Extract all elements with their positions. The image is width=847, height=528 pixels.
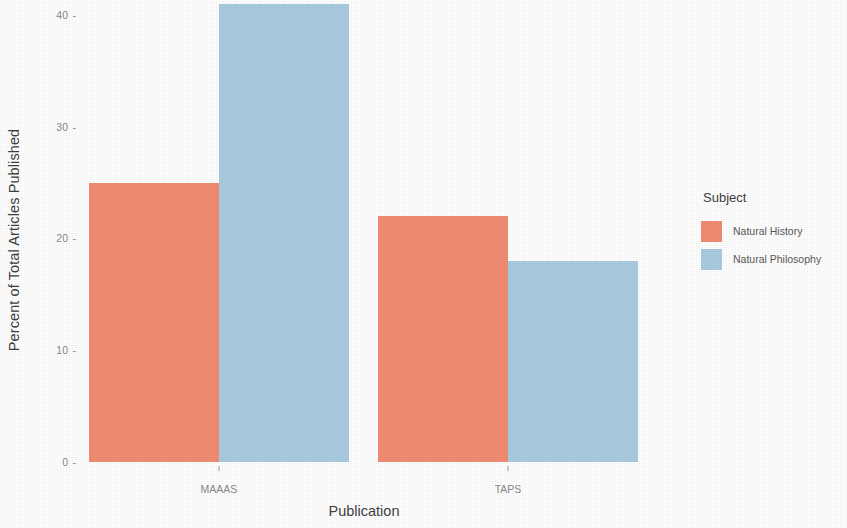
legend-item[interactable]: Natural Philosophy (701, 245, 847, 273)
bar-taps-natural-philosophy (508, 261, 638, 462)
y-axis-tick-label: 40 - (26, 9, 76, 21)
x-axis-tick-label: MAAAS (201, 483, 238, 495)
legend-item[interactable]: Natural History (701, 217, 847, 245)
legend-title: Subject (701, 190, 847, 205)
legend-entries: Natural HistoryNatural Philosophy (701, 217, 847, 273)
y-axis-title: Percent of Total Articles Published (0, 0, 28, 480)
legend: Subject Natural HistoryNatural Philosoph… (701, 190, 847, 273)
legend-swatch-icon (701, 249, 722, 270)
bar-maaas-natural-history (89, 183, 219, 463)
x-axis-tick-mark (508, 466, 509, 471)
bar-taps-natural-history (378, 216, 508, 462)
x-axis-tick-mark (219, 466, 220, 471)
x-axis-tick-label: TAPS (495, 483, 522, 495)
legend-item-label: Natural Philosophy (733, 253, 821, 265)
plot-area (84, 0, 644, 462)
y-axis-tick-label: 30 - (26, 121, 76, 133)
bar-maaas-natural-philosophy (219, 4, 349, 462)
y-axis-tick-label: 10 - (26, 344, 76, 356)
y-axis-tick-label: 0 - (26, 456, 76, 468)
x-axis-title: Publication (84, 503, 644, 519)
legend-item-label: Natural History (733, 225, 802, 237)
bar-chart: Percent of Total Articles Published 0 -1… (0, 0, 847, 528)
legend-swatch-icon (701, 221, 722, 242)
y-axis-title-text: Percent of Total Articles Published (6, 129, 22, 351)
y-axis-tick-label: 20 - (26, 232, 76, 244)
